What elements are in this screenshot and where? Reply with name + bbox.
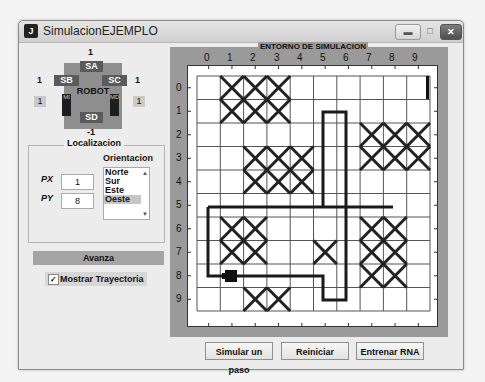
environment-grid: [0, 0, 485, 382]
simular-un-paso-button[interactable]: Simular un paso: [205, 342, 273, 360]
entrenar-rna-button[interactable]: Entrenar RNA: [356, 342, 424, 360]
goal-marker: [426, 76, 429, 99]
reiniciar-button[interactable]: Reiniciar: [281, 342, 349, 360]
robot-marker: [225, 270, 237, 282]
